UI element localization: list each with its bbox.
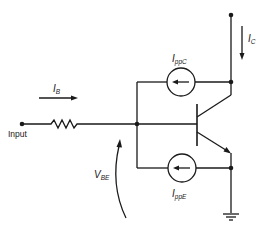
collector-current-label: IC: [248, 34, 255, 46]
input-label: Input: [8, 130, 27, 139]
transistor-collector-lead: [197, 95, 231, 117]
base-current-label: IB: [53, 84, 60, 96]
ground-icon: [223, 214, 239, 220]
vbe-label: VBE: [94, 170, 109, 182]
base-current-arrowhead: [71, 96, 78, 101]
transistor-emitter-lead: [197, 132, 229, 152]
emitter-source-label: IppE: [172, 189, 186, 201]
collector-source-arrow-icon: [172, 80, 178, 85]
emitter-arrow-icon: [224, 147, 232, 154]
emitter-node-dot: [229, 166, 234, 171]
circuit-diagram: [0, 0, 268, 231]
collector-node-dot: [229, 80, 234, 85]
collector-current-arrowhead: [240, 53, 245, 60]
emitter-source-arrow-icon: [173, 166, 179, 171]
collector-source-label: IppC: [172, 54, 187, 66]
vbe-arrowhead: [117, 139, 123, 148]
vbe-curved-arrow: [116, 146, 126, 218]
base-resistor-wire: [22, 120, 197, 128]
